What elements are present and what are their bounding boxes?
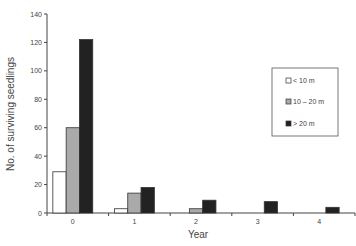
legend-label-lt10: < 10 m: [293, 77, 315, 84]
x-tick-label: 4: [317, 218, 321, 225]
y-tick-label: 80: [34, 96, 42, 103]
legend-swatch-gt20: [286, 121, 291, 126]
bar: [128, 193, 141, 213]
bar: [203, 200, 216, 213]
y-tick-label: 40: [34, 153, 42, 160]
x-tick-label: 2: [194, 218, 198, 225]
x-tick-label: 3: [256, 218, 260, 225]
bar-chart: 02040608010012014001234 No. of surviving…: [0, 0, 356, 246]
bar: [114, 209, 127, 213]
bar: [79, 40, 92, 213]
bar: [326, 207, 339, 213]
legend-swatch-lt10: [286, 78, 291, 83]
bar: [53, 172, 66, 213]
y-tick-label: 120: [30, 39, 42, 46]
y-tick-label: 20: [34, 181, 42, 188]
y-axis-label: No. of surviving seedlings: [5, 57, 16, 171]
legend-swatch-10-20: [286, 99, 291, 104]
bar: [66, 128, 79, 213]
x-axis-label: Year: [188, 229, 209, 240]
bar: [264, 202, 277, 213]
y-tick-label: 60: [34, 124, 42, 131]
legend-label-gt20: > 20 m: [293, 120, 315, 127]
x-tick-label: 1: [132, 218, 136, 225]
y-tick-label: 100: [30, 67, 42, 74]
bar: [141, 187, 154, 213]
x-tick-label: 0: [71, 218, 75, 225]
legend-label-10-20: 10 – 20 m: [293, 98, 324, 105]
y-tick-label: 140: [30, 11, 42, 18]
y-tick-label: 0: [38, 210, 42, 217]
bar: [189, 209, 202, 213]
legend: < 10 m 10 – 20 m > 20 m: [272, 68, 338, 136]
